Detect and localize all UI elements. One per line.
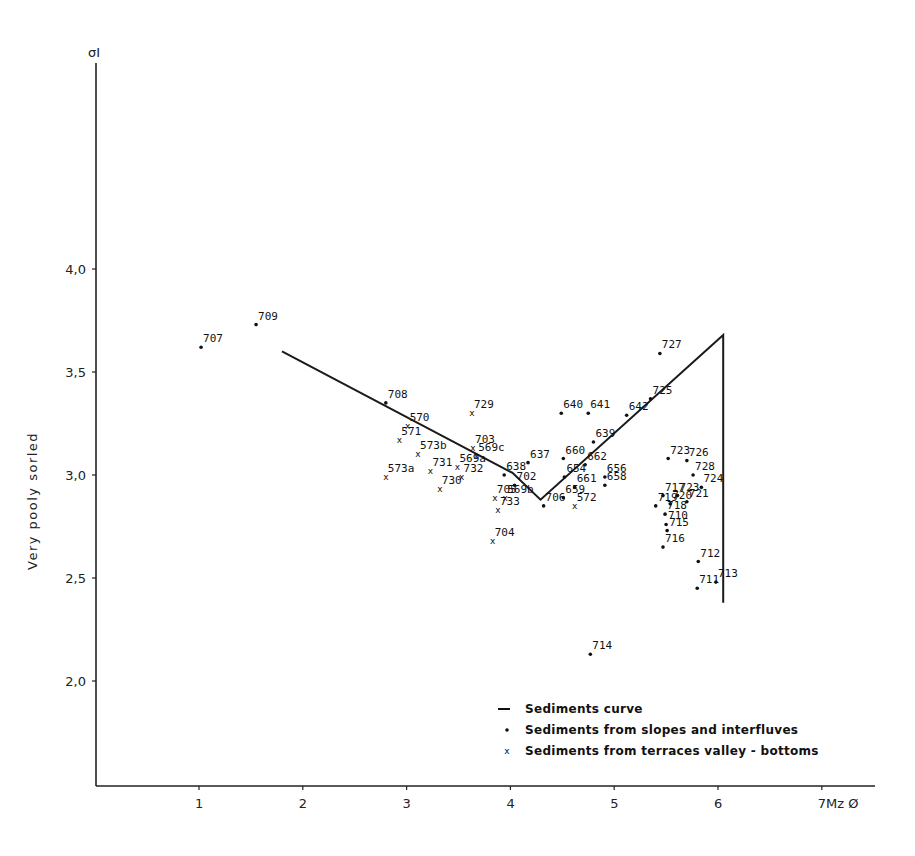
y-axis-symbol: σI bbox=[88, 45, 100, 60]
y-tick-label: 3,0 bbox=[65, 468, 86, 483]
dot-marker-icon bbox=[666, 457, 670, 461]
dot-marker-icon bbox=[199, 345, 203, 349]
x-tick-label: 5 bbox=[610, 796, 618, 811]
point-label: 729 bbox=[474, 398, 494, 411]
x-tick-label: 2 bbox=[299, 796, 307, 811]
dot-marker-icon bbox=[649, 397, 653, 401]
point-label: 660 bbox=[565, 444, 585, 457]
legend-dot-icon bbox=[505, 728, 509, 732]
data-point-708: 708 bbox=[384, 388, 408, 405]
point-label: 716 bbox=[665, 532, 685, 545]
point-label: 712 bbox=[700, 547, 720, 560]
point-label: 572 bbox=[577, 491, 597, 504]
legend-item: xSediments from terraces valley - bottom… bbox=[504, 744, 818, 758]
legend-item: Sediments from slopes and interfluves bbox=[505, 723, 798, 737]
dot-marker-icon bbox=[384, 401, 388, 405]
data-point-723: 723 bbox=[666, 444, 690, 461]
dot-marker-icon bbox=[658, 352, 662, 356]
data-point-712: 712 bbox=[696, 547, 720, 564]
data-point-733: x733 bbox=[495, 495, 520, 515]
x-tick-label: 3 bbox=[403, 796, 411, 811]
point-label: 570 bbox=[410, 411, 430, 424]
point-label: 731 bbox=[432, 456, 452, 469]
scatter-chart: σI2,02,53,03,54,01234567Mz ØVery pooly s… bbox=[0, 0, 915, 856]
legend: Sediments curveSediments from slopes and… bbox=[498, 702, 819, 758]
dot-marker-icon bbox=[589, 652, 593, 656]
dot-marker-icon bbox=[664, 523, 668, 527]
dot-marker-icon bbox=[696, 560, 700, 564]
dot-marker-icon bbox=[562, 457, 566, 461]
data-point-637: 637 bbox=[526, 448, 550, 465]
data-point-569c: x569c bbox=[473, 441, 504, 461]
point-label: 642 bbox=[629, 400, 649, 413]
legend-label: Sediments curve bbox=[525, 702, 643, 716]
legend-x-icon: x bbox=[504, 746, 510, 756]
data-point-639: 639 bbox=[592, 427, 616, 444]
axes: σI2,02,53,03,54,01234567Mz ØVery pooly s… bbox=[25, 45, 875, 811]
data-point-727: 727 bbox=[658, 338, 682, 355]
legend-label: Sediments from slopes and interfluves bbox=[525, 723, 798, 737]
dot-marker-icon bbox=[559, 411, 563, 415]
data-point-731: x731 bbox=[428, 456, 453, 476]
data-point-573a: x573a bbox=[383, 462, 414, 482]
legend-label: Sediments from terraces valley - bottoms bbox=[525, 744, 819, 758]
point-label: 573a bbox=[388, 462, 415, 475]
point-label: 726 bbox=[689, 446, 709, 459]
dot-marker-icon bbox=[502, 473, 506, 477]
y-tick-label: 2,0 bbox=[65, 674, 86, 689]
point-label: 639 bbox=[595, 427, 615, 440]
point-label: 641 bbox=[590, 398, 610, 411]
data-point-660: 660 bbox=[562, 444, 586, 461]
dot-marker-icon bbox=[695, 587, 699, 591]
data-point-729: x729 bbox=[469, 398, 494, 418]
point-label: 573b bbox=[420, 439, 447, 452]
point-label: 724 bbox=[703, 472, 723, 485]
dot-marker-icon bbox=[625, 413, 629, 417]
data-point-641: 641 bbox=[586, 398, 610, 415]
dot-marker-icon bbox=[603, 484, 607, 488]
point-label: 715 bbox=[669, 516, 689, 529]
data-point-571: x571 bbox=[397, 425, 422, 445]
point-label: 569c bbox=[478, 441, 505, 454]
point-label: 732 bbox=[464, 462, 484, 475]
dot-marker-icon bbox=[661, 545, 665, 549]
point-label: 708 bbox=[388, 388, 408, 401]
curve-line bbox=[282, 335, 723, 603]
data-point-711: 711 bbox=[695, 573, 719, 590]
point-label: 658 bbox=[607, 470, 627, 483]
point-label: 723 bbox=[670, 444, 690, 457]
y-tick-label: 3,5 bbox=[65, 365, 86, 380]
sediments-curve bbox=[282, 335, 723, 603]
point-label: 704 bbox=[495, 526, 515, 539]
point-label: 725 bbox=[653, 384, 673, 397]
legend-item: Sediments curve bbox=[498, 702, 643, 716]
dot-marker-icon bbox=[663, 512, 667, 516]
data-point-662: 662 bbox=[583, 450, 607, 467]
data-point-572: x572 bbox=[572, 491, 597, 511]
data-point-658: 658 bbox=[603, 470, 627, 487]
dot-marker-icon bbox=[654, 504, 658, 508]
data-point-732: x732 bbox=[459, 462, 484, 482]
point-label: 728 bbox=[695, 460, 715, 473]
point-label: 637 bbox=[530, 448, 550, 461]
dot-marker-icon bbox=[542, 504, 546, 508]
point-label: 702 bbox=[517, 470, 537, 483]
data-point-706: 706 bbox=[542, 491, 566, 508]
point-label: 709 bbox=[258, 310, 278, 323]
dot-marker-icon bbox=[592, 440, 596, 444]
data-point-642: 642 bbox=[625, 400, 649, 417]
point-label: 569b bbox=[507, 483, 533, 496]
point-label: 711 bbox=[699, 573, 719, 586]
point-label: 640 bbox=[563, 398, 583, 411]
x-tick-label: 1 bbox=[195, 796, 203, 811]
y-tick-label: 2,5 bbox=[65, 571, 86, 586]
point-label: 662 bbox=[587, 450, 607, 463]
point-label: 714 bbox=[592, 639, 612, 652]
point-label: 733 bbox=[500, 495, 520, 508]
dot-marker-icon bbox=[526, 461, 530, 465]
dot-marker-icon bbox=[586, 411, 590, 415]
data-point-709: 709 bbox=[254, 310, 278, 327]
dot-marker-icon bbox=[691, 473, 695, 477]
dot-marker-icon bbox=[583, 463, 587, 467]
x-tick-label: 6 bbox=[714, 796, 722, 811]
